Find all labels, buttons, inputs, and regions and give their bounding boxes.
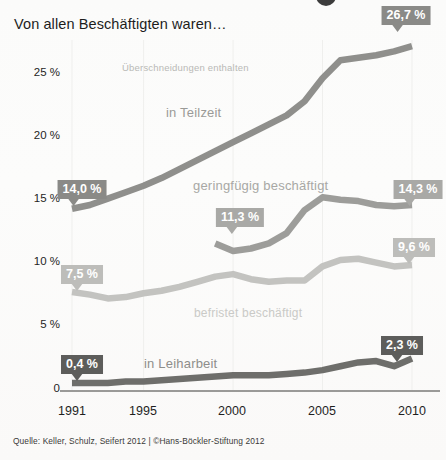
x-tick-1995: 1995	[129, 404, 157, 418]
series-label-befristet: befristet beschäftigt	[194, 306, 302, 320]
series-label-leiharbeit: in Leiharbeit	[144, 356, 217, 371]
callout-leih-end: 2,3 %	[381, 336, 423, 355]
y-tick-25: 25 %	[14, 66, 60, 78]
series-label-teilzeit: in Teilzeit	[166, 105, 221, 120]
callout-befristet-end: 9,6 %	[393, 238, 435, 257]
callout-gering-end: 14,3 %	[394, 180, 443, 199]
series-line-2	[72, 259, 412, 299]
y-tick-0: 0	[14, 382, 60, 394]
x-tick-1991: 1991	[58, 404, 86, 418]
callout-teilzeit-end: 26,7 %	[382, 6, 431, 25]
series-line-3	[72, 359, 412, 383]
y-tick-5: 5 %	[14, 318, 60, 330]
x-tick-2000: 2000	[218, 404, 246, 418]
y-tick-10: 10 %	[14, 255, 60, 267]
x-tick-2010: 2010	[398, 404, 426, 418]
callout-befristet-start: 7,5 %	[61, 265, 103, 284]
callout-teilzeit-start: 14,0 %	[58, 180, 107, 199]
x-tick-2005: 2005	[308, 404, 336, 418]
overlap-note: Überschneidungen enthalten	[122, 62, 249, 73]
series-label-geringfuegig: geringfügig beschäftigt	[193, 178, 328, 193]
callout-leih-start: 0,4 %	[61, 355, 103, 374]
source-citation: Quelle: Keller, Schulz, Seifert 2012 | ©…	[13, 436, 264, 446]
y-tick-20: 20 %	[14, 129, 60, 141]
y-tick-15: 15 %	[14, 192, 60, 204]
callout-gering-start: 11,3 %	[216, 208, 264, 227]
